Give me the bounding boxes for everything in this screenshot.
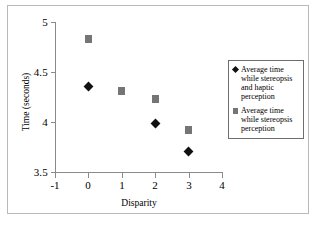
data-point-diamond-2 xyxy=(150,118,160,128)
data-point-square-2 xyxy=(152,95,159,103)
data-point-square-0 xyxy=(85,35,92,43)
y-axis-title: Time (seconds) xyxy=(21,32,31,172)
x-axis-line xyxy=(55,172,223,173)
plot-area xyxy=(55,22,222,172)
legend-item-1[interactable]: Average time while stereopsis perception xyxy=(232,106,300,133)
data-point-square-1 xyxy=(118,87,125,95)
x-tick-label-3: 3 xyxy=(174,180,204,191)
y-tick-label-5: 5 xyxy=(8,17,48,28)
square-marker-icon xyxy=(233,108,238,114)
x-tick-3 xyxy=(189,173,190,178)
x-tick-label-neg1: -1 xyxy=(40,180,70,191)
data-point-square-3 xyxy=(185,126,192,134)
x-tick-neg1 xyxy=(55,173,56,178)
x-tick-label-2: 2 xyxy=(140,180,170,191)
x-tick-4 xyxy=(222,173,223,178)
legend-item-0[interactable]: Average time while stereopsis and haptic… xyxy=(232,65,300,101)
legend-label-1: Average time while stereopsis perception xyxy=(241,106,300,133)
x-tick-2 xyxy=(155,173,156,178)
legend-label-0: Average time while stereopsis and haptic… xyxy=(241,65,300,101)
diamond-marker-icon xyxy=(232,66,239,73)
x-tick-label-4: 4 xyxy=(207,180,237,191)
x-tick-label-1: 1 xyxy=(107,180,137,191)
data-point-diamond-3 xyxy=(184,146,194,156)
x-tick-label-0: 0 xyxy=(73,180,103,191)
data-point-diamond-0 xyxy=(83,81,93,91)
x-tick-0 xyxy=(88,173,89,178)
x-tick-1 xyxy=(122,173,123,178)
chart-figure: 5 4.5 4 3.5 -1 0 1 2 3 4 Disparity Time … xyxy=(0,0,320,229)
chart-legend: Average time while stereopsis and haptic… xyxy=(228,60,304,139)
x-axis-title: Disparity xyxy=(55,198,223,208)
